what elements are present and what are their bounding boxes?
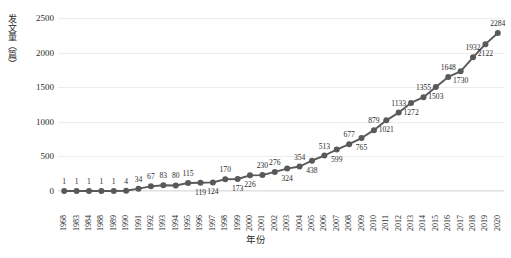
x-axis-tick-label: 2006 xyxy=(320,215,328,231)
data-point-marker xyxy=(445,74,451,80)
data-point-label: 765 xyxy=(356,144,367,152)
x-axis-tick-label: 2013 xyxy=(407,215,415,231)
data-point-label: 354 xyxy=(294,154,305,162)
data-point-marker xyxy=(148,183,154,189)
data-point-label: 115 xyxy=(183,170,194,178)
data-point-marker xyxy=(185,180,191,186)
data-point-marker xyxy=(396,110,402,116)
data-point-marker xyxy=(334,147,340,153)
y-axis-tick-label: 1500 xyxy=(36,83,54,92)
data-point-label: 1503 xyxy=(428,93,443,101)
data-point-label: 67 xyxy=(147,173,155,181)
x-axis-tick-label: 1999 xyxy=(234,215,242,231)
data-point-marker xyxy=(210,179,216,185)
x-axis-tick-label: 1991 xyxy=(135,215,143,231)
data-point-label: 1 xyxy=(75,178,79,186)
y-axis-title: 发文量（篇） xyxy=(3,14,17,68)
x-axis-tick-label: 2003 xyxy=(283,215,291,231)
data-point-marker xyxy=(197,180,203,186)
data-point-label: 1 xyxy=(112,178,116,186)
data-point-marker xyxy=(222,176,228,182)
y-axis-tick-label: 2500 xyxy=(36,14,54,23)
y-axis-tick-label: 500 xyxy=(41,152,55,161)
x-axis-tick-label: 2017 xyxy=(457,215,465,231)
data-point-label: 599 xyxy=(331,156,342,164)
x-axis-tick-labels: 1968198319841988198919901991199219931994… xyxy=(58,193,504,231)
x-axis-tick-label: 2009 xyxy=(358,215,366,231)
data-point-label: 513 xyxy=(319,143,330,151)
data-point-marker xyxy=(235,176,241,182)
data-point-marker xyxy=(160,182,166,188)
data-point-label: 80 xyxy=(172,172,180,180)
x-axis-tick-label: 1989 xyxy=(110,215,118,231)
data-point-marker xyxy=(284,166,290,172)
x-axis-tick-label: 1998 xyxy=(221,215,229,231)
plot-area: 05001000150020002500 1111143467838011511… xyxy=(58,18,504,191)
data-point-marker xyxy=(433,84,439,90)
publication-count-line-chart: 发文量（篇） 05001000150020002500 111114346783… xyxy=(0,0,511,258)
x-axis-tick-label: 2001 xyxy=(258,215,266,231)
x-axis-tick-label: 2014 xyxy=(419,215,427,231)
data-point-marker xyxy=(173,182,179,188)
data-point-label: 170 xyxy=(220,166,231,174)
x-axis-tick-label: 1990 xyxy=(122,215,130,231)
x-axis-tick-label: 2018 xyxy=(469,215,477,231)
data-point-label: 438 xyxy=(306,167,317,175)
data-point-label: 2284 xyxy=(490,20,505,28)
x-axis-tick-label: 2016 xyxy=(444,215,452,231)
data-point-marker xyxy=(458,68,464,74)
x-axis-tick-label: 1994 xyxy=(172,215,180,231)
x-axis-tick-label: 1992 xyxy=(147,215,155,231)
data-point-label: 879 xyxy=(368,117,379,125)
x-axis-tick-label: 2005 xyxy=(308,215,316,231)
data-point-marker xyxy=(495,30,501,36)
x-axis-tick-label: 2019 xyxy=(481,215,489,231)
data-point-marker xyxy=(359,135,365,141)
data-point-label: 1 xyxy=(87,178,91,186)
data-point-marker xyxy=(371,127,377,133)
x-axis-tick-label: 2015 xyxy=(432,215,440,231)
x-axis-tick-label: 2011 xyxy=(382,215,390,231)
data-point-label: 173 xyxy=(232,185,243,193)
data-point-label: 677 xyxy=(343,131,354,139)
data-point-label: 34 xyxy=(135,176,143,184)
data-point-marker xyxy=(383,117,389,123)
x-axis-tick-label: 2012 xyxy=(395,215,403,231)
data-point-marker xyxy=(272,169,278,175)
x-axis-tick-label: 2004 xyxy=(296,215,304,231)
y-axis-tick-label: 1000 xyxy=(36,117,54,126)
x-axis-tick-label: 1983 xyxy=(73,215,81,231)
y-axis-tick-label: 2000 xyxy=(36,48,54,57)
data-point-marker xyxy=(420,94,426,100)
data-point-marker xyxy=(321,153,327,159)
data-point-marker xyxy=(408,100,414,106)
x-axis-tick-label: 2007 xyxy=(333,215,341,231)
x-axis-title: 年份 xyxy=(0,232,511,246)
data-point-label: 230 xyxy=(257,162,268,170)
data-point-marker xyxy=(482,41,488,47)
data-point-label: 1 xyxy=(99,178,103,186)
y-axis-tick-label: 0 xyxy=(50,187,55,196)
data-point-label: 4 xyxy=(124,178,128,186)
data-point-label: 1133 xyxy=(391,100,406,108)
x-axis-tick-label: 1968 xyxy=(60,215,68,231)
x-axis-tick-label: 2010 xyxy=(370,215,378,231)
x-axis-tick-label: 2002 xyxy=(271,215,279,231)
data-point-marker xyxy=(470,54,476,60)
x-axis-tick-label: 1984 xyxy=(85,215,93,231)
data-point-marker xyxy=(297,164,303,170)
data-point-marker xyxy=(346,141,352,147)
x-axis-tick-label: 1988 xyxy=(97,215,105,231)
data-point-label: 226 xyxy=(244,181,255,189)
series-line xyxy=(58,18,504,191)
x-axis-tick-label: 1993 xyxy=(159,215,167,231)
data-point-label: 2122 xyxy=(478,50,493,58)
data-point-label: 1021 xyxy=(379,126,394,134)
data-point-label: 1730 xyxy=(453,77,468,85)
x-axis-tick-label: 2000 xyxy=(246,215,254,231)
data-point-label: 1 xyxy=(62,178,66,186)
data-point-marker xyxy=(136,186,142,192)
x-axis-tick-label: 1997 xyxy=(209,215,217,231)
data-point-label: 83 xyxy=(160,172,168,180)
x-axis-tick-label: 1996 xyxy=(196,215,204,231)
